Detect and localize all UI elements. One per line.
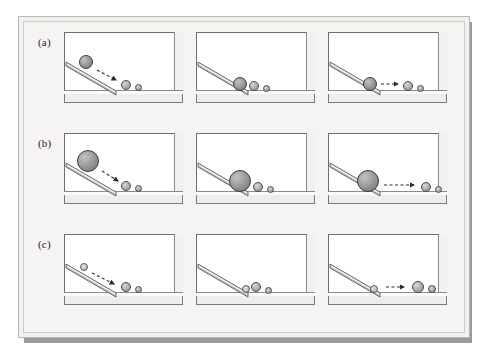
experiment-panel xyxy=(328,32,456,116)
figure-plate-inner: (a)(b)(c) xyxy=(23,21,465,333)
row-label: (a) xyxy=(38,36,51,48)
panel-row: (c) xyxy=(34,232,462,330)
ramp xyxy=(196,234,324,318)
motion-arrow xyxy=(328,32,456,116)
target-ball xyxy=(135,84,142,91)
motion-arrow xyxy=(64,32,192,116)
target-ball xyxy=(267,186,274,193)
motion-arrow xyxy=(328,234,456,318)
target-ball xyxy=(121,181,131,191)
figure-plate: (a)(b)(c) xyxy=(18,16,470,338)
target-ball xyxy=(135,185,142,192)
target-ball xyxy=(421,182,431,192)
rolling-ball xyxy=(357,170,379,192)
target-ball xyxy=(251,282,261,292)
row-label: (b) xyxy=(38,137,51,149)
target-ball xyxy=(417,85,424,92)
panel-row: (b) xyxy=(34,131,462,229)
experiment-panel xyxy=(196,133,324,217)
target-ball xyxy=(435,186,442,193)
target-ball xyxy=(121,282,131,292)
rolling-ball xyxy=(229,170,251,192)
ramp xyxy=(196,133,324,217)
rolling-ball xyxy=(233,77,247,91)
rolling-ball xyxy=(242,285,250,293)
row-label: (c) xyxy=(38,238,51,250)
target-ball xyxy=(135,286,142,293)
rolling-ball xyxy=(80,263,88,271)
target-ball xyxy=(121,80,131,90)
rolling-ball xyxy=(79,55,93,69)
motion-arrow xyxy=(328,133,456,217)
experiment-panel xyxy=(64,32,192,116)
panel-row: (a) xyxy=(34,30,462,128)
experiment-panel xyxy=(196,32,324,116)
experiment-panel xyxy=(328,133,456,217)
target-ball xyxy=(428,285,436,293)
target-ball xyxy=(253,182,263,192)
panel-grid: (a)(b)(c) xyxy=(34,30,462,330)
target-ball xyxy=(412,281,424,293)
experiment-panel xyxy=(64,234,192,318)
rolling-ball xyxy=(363,77,377,91)
rolling-ball xyxy=(77,150,99,172)
motion-arrow xyxy=(64,133,192,217)
target-ball xyxy=(249,81,259,91)
experiment-panel xyxy=(64,133,192,217)
target-ball xyxy=(265,287,272,294)
ramp xyxy=(196,32,324,116)
target-ball xyxy=(263,85,270,92)
motion-arrow xyxy=(64,234,192,318)
target-ball xyxy=(403,81,413,91)
experiment-panel xyxy=(328,234,456,318)
figure-stage: (a)(b)(c) xyxy=(0,0,496,355)
experiment-panel xyxy=(196,234,324,318)
rolling-ball xyxy=(370,285,378,293)
